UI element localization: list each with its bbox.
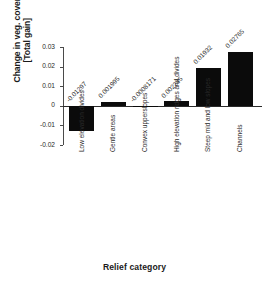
y-axis-tick-label: -0.01 — [29, 122, 55, 129]
x-axis-category-label: Steep mid and low slopes — [205, 78, 212, 152]
y-axis-title-line-2: [Total gain] — [22, 0, 32, 114]
bar-value-label: 0.01932 — [192, 45, 213, 66]
y-axis-tick-label: -0.02 — [29, 142, 55, 149]
bar-value-label: 0.001995 — [97, 76, 121, 100]
bar — [101, 102, 126, 106]
y-axis-tick-mark — [60, 125, 63, 126]
y-axis-tick-mark — [60, 67, 63, 68]
x-axis-title: Relief category — [0, 262, 269, 272]
y-axis-tick-label: 0.03 — [29, 44, 55, 51]
x-axis-category-label: Gentle areas — [110, 115, 117, 152]
bar-chart: Change in veg. cover [Total gain] 0.030.… — [0, 0, 269, 287]
bar-value-label: 0.02765 — [224, 28, 245, 49]
y-axis-tick-label: 0.02 — [29, 63, 55, 70]
y-axis-tick-mark — [60, 47, 63, 48]
y-axis-tick-mark — [60, 145, 63, 146]
x-axis-category-label: Channels — [237, 125, 244, 152]
y-axis-tick-mark — [60, 86, 63, 87]
y-axis-spine — [63, 47, 64, 145]
y-axis-title-line-1: Change in veg. cover — [12, 0, 22, 114]
y-axis-title: Change in veg. cover [Total gain] — [12, 0, 32, 114]
y-axis-tick-label: 0 — [29, 102, 55, 109]
x-axis-category-label: High elevation ridges and divides — [174, 57, 181, 152]
x-axis-category-label: Low elevation divides — [79, 90, 86, 152]
y-axis-tick-label: 0.01 — [29, 83, 55, 90]
x-axis-category-label: Convex upperslopes — [142, 93, 149, 152]
bar — [228, 52, 253, 106]
